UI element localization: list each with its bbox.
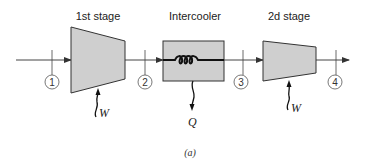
work-symbol-stage2: W bbox=[291, 101, 302, 115]
figure-caption: (a) bbox=[184, 147, 196, 159]
state-3-marker: 3 bbox=[234, 50, 248, 89]
heat-output-arrow: Q bbox=[188, 81, 197, 129]
intercooler-label: Intercooler bbox=[169, 10, 221, 22]
stage1-compressor bbox=[71, 27, 125, 93]
state-2-marker: 2 bbox=[138, 50, 152, 89]
state-4-marker: 4 bbox=[328, 50, 342, 89]
state-2-label: 2 bbox=[142, 77, 148, 88]
stage2-compressor bbox=[263, 41, 316, 81]
state-4-label: 4 bbox=[332, 77, 338, 88]
stage2-label: 2d stage bbox=[268, 10, 310, 22]
state-1-label: 1 bbox=[49, 77, 55, 88]
state-3-label: 3 bbox=[238, 77, 244, 88]
state-1-marker: 1 bbox=[45, 50, 59, 89]
heat-symbol: Q bbox=[188, 115, 197, 129]
work-input-arrow-stage1: W bbox=[95, 88, 110, 120]
work-input-arrow-stage2: W bbox=[287, 80, 303, 115]
work-symbol-stage1: W bbox=[99, 106, 110, 120]
stage1-label: 1st stage bbox=[76, 10, 121, 22]
compressor-intercooler-diagram: 1st stage Intercooler 2d stage 1 2 3 4 W bbox=[0, 0, 380, 164]
